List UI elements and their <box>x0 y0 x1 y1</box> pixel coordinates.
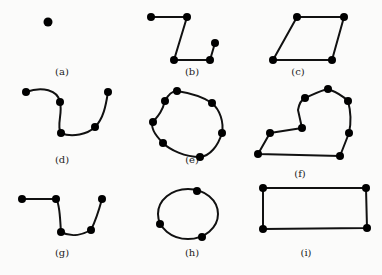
figure-canvas: (a)(b)(c)(d)(e)(f)(g)(h)(i) <box>0 0 382 275</box>
node-g-2 <box>57 228 65 236</box>
node-d-1 <box>56 98 64 106</box>
node-b-3 <box>206 56 214 64</box>
panel-label-f: (f) <box>294 168 306 179</box>
node-d-0 <box>22 88 30 96</box>
panel-label-a: (a) <box>55 66 69 77</box>
node-e-1 <box>208 99 216 107</box>
node-f-3 <box>336 152 344 160</box>
node-f-1 <box>344 97 352 105</box>
figure-svg: (a)(b)(c)(d)(e)(f)(g)(h)(i) <box>0 0 382 275</box>
node-h-1 <box>156 220 164 228</box>
node-i-1 <box>362 184 370 192</box>
node-e-3 <box>196 153 204 161</box>
node-c-3 <box>269 56 277 64</box>
edges-b <box>151 17 215 60</box>
node-h-2 <box>198 233 206 241</box>
node-g-4 <box>98 195 106 203</box>
node-a-0 <box>44 18 53 27</box>
panel-h <box>158 189 218 239</box>
node-f-6 <box>298 124 306 132</box>
node-g-3 <box>87 226 95 234</box>
node-e-0 <box>173 87 181 95</box>
node-b-0 <box>147 13 155 21</box>
node-d-3 <box>91 123 99 131</box>
panel-i <box>263 188 367 229</box>
panel-label-c: (c) <box>291 66 305 77</box>
node-g-1 <box>52 195 60 203</box>
node-i-0 <box>259 184 267 192</box>
node-c-1 <box>340 13 348 21</box>
node-e-4 <box>159 139 167 147</box>
node-e-5 <box>149 118 157 126</box>
node-b-4 <box>211 39 219 47</box>
edges-c <box>273 17 344 60</box>
node-f-7 <box>301 94 309 102</box>
node-e-6 <box>161 97 169 105</box>
node-d-2 <box>57 129 65 137</box>
panel-label-h: (h) <box>185 247 199 258</box>
node-g-0 <box>18 195 26 203</box>
panel-b <box>151 17 215 60</box>
panel-c <box>273 17 344 60</box>
panel-label-b: (b) <box>185 66 199 77</box>
panel-label-i: (i) <box>300 247 311 258</box>
node-b-2 <box>170 56 178 64</box>
node-i-2 <box>363 224 371 232</box>
node-h-0 <box>193 187 201 195</box>
node-d-4 <box>104 88 112 96</box>
node-c-2 <box>328 56 336 64</box>
node-b-1 <box>183 13 191 21</box>
node-f-0 <box>324 85 332 93</box>
node-i-3 <box>259 225 267 233</box>
ellipse-h <box>158 189 218 239</box>
edges-i <box>263 188 367 229</box>
node-c-0 <box>293 13 301 21</box>
node-f-2 <box>345 129 353 137</box>
node-f-4 <box>254 150 262 158</box>
node-f-5 <box>266 129 274 137</box>
panel-nodes <box>18 13 371 241</box>
node-e-2 <box>218 129 226 137</box>
panel-label-g: (g) <box>55 247 69 258</box>
panel-label-d: (d) <box>55 154 69 165</box>
